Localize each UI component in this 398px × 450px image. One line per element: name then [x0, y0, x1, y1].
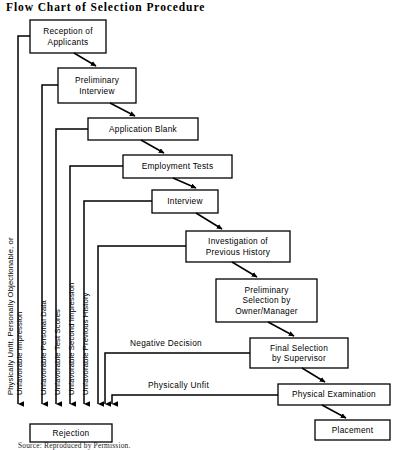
node-box-tests — [123, 155, 232, 178]
flow-interview-to-history — [196, 213, 222, 229]
node-box-placement — [315, 420, 390, 440]
edge-label-physically-unfit: Physically Unfit — [148, 380, 209, 390]
rail-final-negative-decision — [105, 353, 250, 404]
flow-preliminary-to-application — [110, 103, 135, 116]
source-caption: Source: Reproduced by Permission. — [18, 441, 131, 450]
node-box-physical — [278, 384, 390, 405]
flow-application-to-tests — [141, 140, 164, 153]
rail-label-interview: Unfavorable Previous History — [81, 292, 90, 395]
node-box-reception — [30, 20, 106, 53]
flow-history-to-selection — [232, 262, 257, 277]
rail-label-preliminary: Unfavorable Personal Data — [39, 300, 48, 395]
node-box-selection — [216, 279, 317, 322]
node-box-rejection — [30, 424, 112, 442]
flow-physical-to-placement — [322, 405, 346, 418]
edge-label-negative-decision: Negative Decision — [130, 338, 202, 348]
rail-physical-physically-unfit — [112, 395, 278, 404]
node-box-history — [186, 231, 290, 262]
flow-tests-to-interview — [173, 178, 196, 188]
flow-final-to-physical — [302, 368, 325, 382]
rail-label-tests: Unfavorable Second Impression — [67, 283, 76, 395]
flow-reception-to-preliminary — [74, 53, 96, 66]
flow-selection-to-final — [268, 322, 294, 336]
node-box-final — [250, 338, 348, 368]
node-box-interview — [152, 190, 218, 213]
rail-interview — [84, 201, 152, 404]
node-box-application — [88, 118, 198, 140]
node-box-preliminary — [58, 68, 136, 103]
rail-label-application: Unfavorable Test Scores — [53, 309, 62, 395]
rail-label-reception: Physically Unfit, Personally Objectionab… — [6, 237, 24, 395]
